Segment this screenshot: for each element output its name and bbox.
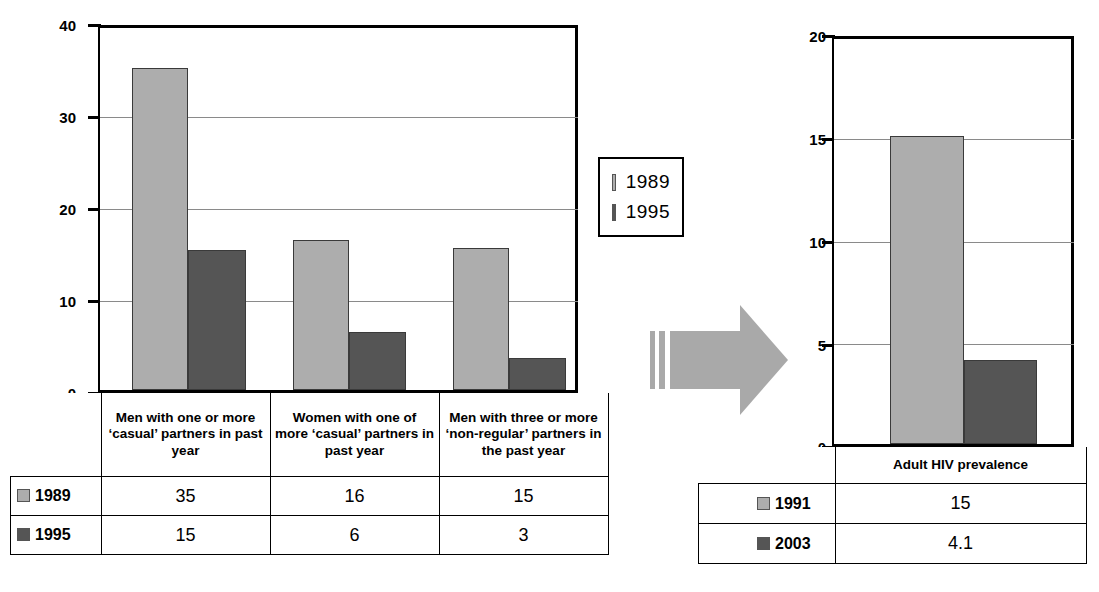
legend-label-1989: 1989: [626, 171, 670, 193]
left-table-value-1989-2: 15: [439, 477, 608, 516]
arrow-tail-stripe-2: [659, 331, 665, 389]
right-table-key-2003-label: 2003: [775, 535, 811, 552]
right-table-key-1991: 1991: [699, 484, 836, 524]
left-table-key-1989: 1989: [11, 477, 102, 516]
left-table-value-1995-1: 6: [270, 516, 439, 555]
legend-item-1995: 1995: [612, 197, 670, 227]
left-plot-area: [100, 25, 578, 393]
left-ytick-label-30: 30: [30, 109, 76, 126]
left-ytick-label-10: 10: [30, 293, 76, 310]
right-table-value-2003-0: 4.1: [835, 524, 1086, 564]
right-table-key-2003: 2003: [699, 524, 836, 564]
left-chart: 40 30 20 10 0 Men with one or more ‘casu…: [0, 0, 620, 592]
left-table-category-0: Men with one or more ‘casual’ partners i…: [101, 393, 270, 477]
bar-2003: [964, 360, 1037, 444]
right-ytick-label-15: 15: [786, 131, 826, 148]
left-table-value-1989-0: 35: [101, 477, 270, 516]
left-table-value-1995-0: 15: [101, 516, 270, 555]
left-table-row-1989: 1989 35 16 15: [11, 477, 609, 516]
left-data-table: Men with one or more ‘casual’ partners i…: [10, 393, 609, 555]
right-data-table: Adult HIV prevalence 1991 15 2003 4.1: [698, 447, 1087, 564]
right-ytick-label-10: 10: [786, 234, 826, 251]
right-table-value-1991-0: 15: [835, 484, 1086, 524]
legend-swatch-1995-icon: [612, 204, 616, 221]
right-plot-area: [834, 36, 1074, 447]
right-ytick-label-20: 20: [786, 28, 826, 45]
left-table-key-1995: 1995: [11, 516, 102, 555]
left-table-corner: [11, 393, 102, 477]
left-table-value-1995-2: 3: [439, 516, 608, 555]
left-table-key-1989-label: 1989: [35, 487, 71, 504]
legend-swatch-1995-icon: [17, 528, 30, 541]
right-table-corner: [699, 447, 836, 484]
arrow-tail-stripe-1: [650, 331, 655, 389]
right-table-row-2003: 2003 4.1: [699, 524, 1087, 564]
right-table-key-1991-label: 1991: [775, 495, 811, 512]
bar-1995-group1: [188, 250, 246, 390]
bar-1989-group3: [453, 248, 509, 390]
left-table-category-1: Women with one of more ‘casual’ partners…: [270, 393, 439, 477]
left-plot-top-border: [100, 25, 578, 28]
left-ytick-label-20: 20: [30, 201, 76, 218]
legend-swatch-1989-icon: [612, 174, 616, 191]
right-table-category-0: Adult HIV prevalence: [835, 447, 1086, 484]
legend-swatch-1989-icon: [17, 489, 30, 502]
legend-item-1989: 1989: [612, 167, 670, 197]
bar-1991: [890, 136, 964, 444]
left-table-row-1995: 1995 15 6 3: [11, 516, 609, 555]
legend-label-1995: 1995: [626, 201, 670, 223]
bar-1989-group1: [132, 68, 188, 390]
right-ytick-label-5: 5: [786, 337, 826, 354]
right-plot-top-border: [834, 36, 1074, 39]
left-chart-legend: 1989 1995: [598, 157, 684, 237]
bar-1995-group2: [349, 332, 406, 390]
bar-1995-group3: [509, 358, 566, 390]
left-table-key-1995-label: 1995: [35, 526, 71, 543]
legend-swatch-1991-icon: [757, 497, 770, 510]
bar-1989-group2: [293, 240, 349, 390]
legend-swatch-2003-icon: [757, 537, 770, 550]
arrow-shaft: [670, 331, 742, 389]
right-table-category-row: Adult HIV prevalence: [699, 447, 1087, 484]
left-table-category-row: Men with one or more ‘casual’ partners i…: [11, 393, 609, 477]
left-table-category-2: Men with three or more ‘non-regular’ par…: [439, 393, 608, 477]
right-table-row-1991: 1991 15: [699, 484, 1087, 524]
left-ytick-label-40: 40: [30, 17, 76, 34]
left-table-value-1989-1: 16: [270, 477, 439, 516]
right-chart: 20 15 10 5 0 Adult HIV prevalence 1991 1…: [760, 0, 1099, 592]
